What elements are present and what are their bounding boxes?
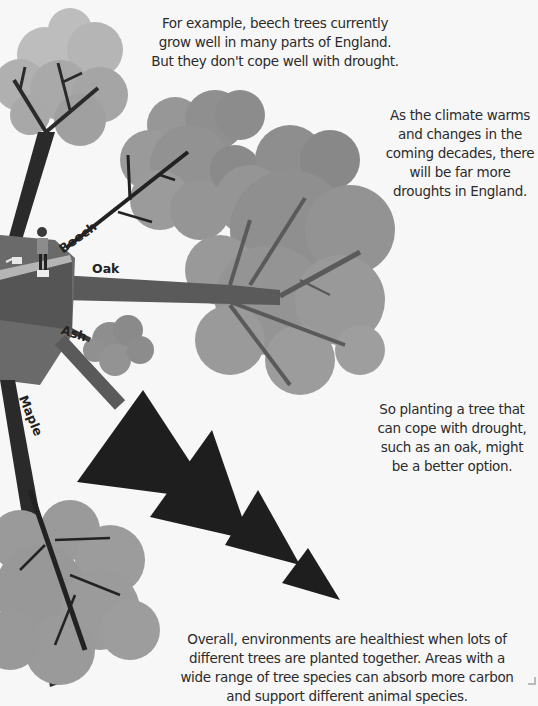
page-corner-mark [528, 677, 536, 685]
oak-option-text: So planting a tree that can cope with dr… [372, 400, 532, 476]
overall-text: Overall, environments are healthiest whe… [172, 630, 522, 706]
maple-tree-canopy [0, 500, 160, 685]
platform [0, 235, 75, 385]
beech-tree-canopy [0, 8, 128, 146]
intro-text: For example, beech trees currently grow … [150, 14, 400, 71]
climate-text: As the climate warms and changes in the … [385, 106, 538, 201]
tree-label-oak: Oak [92, 261, 119, 276]
